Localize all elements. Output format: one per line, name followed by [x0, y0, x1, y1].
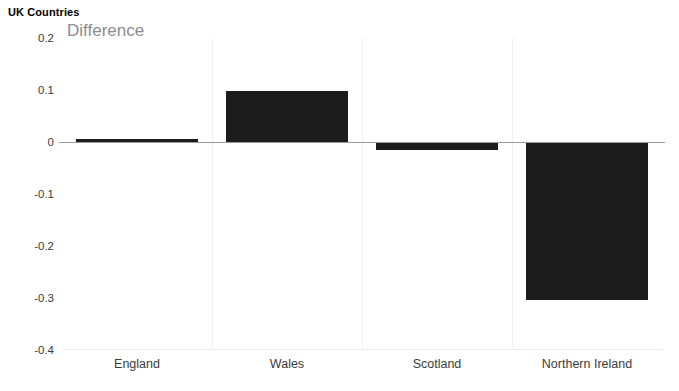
category-divider	[362, 38, 363, 350]
y-tick-label: -0.3	[10, 292, 54, 304]
x-tick-label: Scotland	[362, 357, 512, 371]
y-tick-label: 0	[10, 136, 54, 148]
y-tick-label: -0.4	[10, 344, 54, 356]
bar[interactable]	[226, 91, 348, 142]
x-axis: EnglandWalesScotlandNorthern Ireland	[62, 354, 662, 380]
plot-area	[62, 38, 662, 350]
y-tick-label: 0.2	[10, 32, 54, 44]
y-axis: 0.20.10-0.1-0.2-0.3-0.4	[8, 38, 54, 350]
category-divider	[512, 38, 513, 350]
y-tick-label: 0.1	[10, 84, 54, 96]
x-tick-label: Northern Ireland	[512, 357, 662, 371]
page-title: UK Countries	[8, 6, 79, 18]
zero-line	[59, 142, 665, 144]
x-tick-label: England	[62, 357, 212, 371]
y-tick-label: -0.2	[10, 240, 54, 252]
bar[interactable]	[526, 142, 648, 300]
category-divider	[212, 38, 213, 350]
y-tick-label: -0.1	[10, 188, 54, 200]
x-tick-label: Wales	[212, 357, 362, 371]
bar-chart: UK Countries Difference 0.20.10-0.1-0.2-…	[0, 0, 679, 391]
bar[interactable]	[376, 142, 498, 150]
